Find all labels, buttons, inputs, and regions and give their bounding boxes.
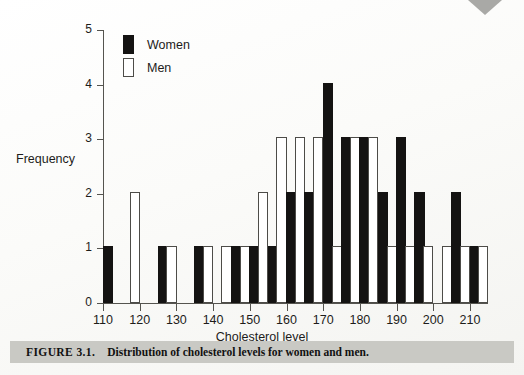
legend-item-women: Women bbox=[123, 33, 190, 56]
chart-legend: Women Men bbox=[123, 33, 190, 79]
bar-series-group bbox=[0, 0, 524, 330]
bar-men-195 bbox=[423, 246, 433, 303]
legend-label-women: Women bbox=[147, 38, 190, 52]
figure-caption-text: Distribution of cholesterol levels for w… bbox=[107, 346, 369, 358]
figure-caption: FIGURE 3.1.Distribution of cholesterol l… bbox=[10, 346, 369, 358]
bar-women-110 bbox=[103, 246, 113, 303]
bar-men-135 bbox=[203, 246, 213, 303]
legend-item-men: Men bbox=[123, 56, 190, 79]
legend-swatch-men-icon bbox=[123, 58, 134, 77]
y-axis-title: Frequency bbox=[16, 152, 75, 166]
bar-men-210 bbox=[478, 246, 488, 303]
histogram-chart: 012345 110120130140150160170180190200210… bbox=[0, 0, 524, 330]
figure-number: FIGURE 3.1. bbox=[26, 346, 95, 358]
legend-swatch-women-icon bbox=[123, 35, 134, 54]
bar-men-115 bbox=[130, 192, 140, 303]
legend-label-men: Men bbox=[147, 61, 171, 75]
bar-men-125 bbox=[166, 246, 176, 303]
figure-caption-bar: FIGURE 3.1.Distribution of cholesterol l… bbox=[10, 341, 514, 363]
